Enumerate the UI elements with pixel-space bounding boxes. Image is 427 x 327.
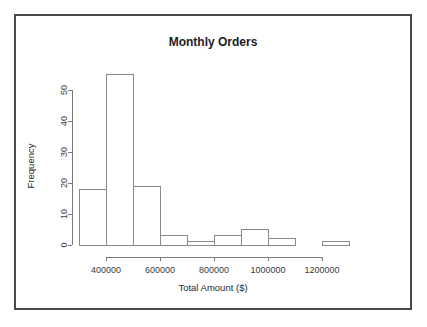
x-tick-label: 800000 — [199, 265, 229, 275]
chart-title: Monthly Orders — [169, 35, 258, 49]
histogram-bars — [79, 75, 349, 246]
histogram-bar — [268, 239, 295, 245]
plot-frame: Monthly Orders Frequency Total Amount ($… — [14, 14, 412, 310]
x-axis-label: Total Amount ($) — [178, 282, 247, 293]
y-tick-label: 10 — [59, 209, 69, 219]
histogram-chart: Monthly Orders Frequency Total Amount ($… — [16, 16, 410, 308]
x-tick-label: 400000 — [91, 265, 121, 275]
y-tick-label: 20 — [59, 178, 69, 188]
histogram-bar — [214, 236, 241, 245]
x-tick-label: 600000 — [145, 265, 175, 275]
y-axis — [68, 90, 72, 245]
y-tick-label: 30 — [59, 147, 69, 157]
x-tick-label: 1000000 — [250, 265, 285, 275]
x-axis — [106, 257, 322, 261]
histogram-bar — [241, 230, 268, 246]
x-tick-label: 1200000 — [304, 265, 339, 275]
y-tick-label: 40 — [59, 116, 69, 126]
x-tick-labels: 40000060000080000010000001200000 — [91, 265, 340, 275]
histogram-bar — [79, 189, 106, 245]
y-axis-label: Frequency — [25, 143, 36, 188]
y-tick-label: 50 — [59, 85, 69, 95]
histogram-bar — [160, 236, 187, 245]
histogram-bar — [106, 75, 133, 246]
figure-root: Monthly Orders Frequency Total Amount ($… — [0, 0, 427, 327]
y-tick-label: 0 — [59, 242, 69, 247]
histogram-bar — [322, 242, 349, 245]
y-tick-labels: 01020304050 — [59, 85, 69, 248]
histogram-bar — [133, 186, 160, 245]
histogram-bar — [187, 242, 214, 245]
